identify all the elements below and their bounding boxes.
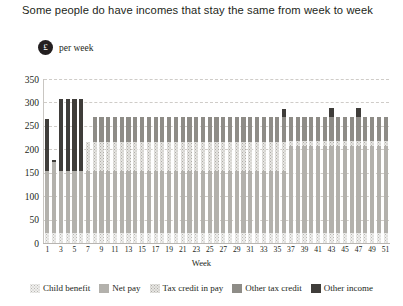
bar-segment: [289, 117, 293, 141]
bar-segment: [221, 171, 225, 233]
legend-item-other-income[interactable]: Other income: [311, 283, 373, 293]
bar-week-29[interactable]: [235, 117, 239, 243]
bar-week-24[interactable]: [201, 117, 205, 243]
bar-week-25[interactable]: [208, 117, 212, 243]
bar-week-43[interactable]: [329, 108, 333, 243]
bar-week-44[interactable]: [336, 117, 340, 243]
bar-week-34[interactable]: [269, 117, 273, 243]
bar-week-12[interactable]: [120, 117, 124, 243]
bar-week-14[interactable]: [133, 117, 137, 243]
bar-segment: [181, 117, 185, 141]
bar-week-30[interactable]: [241, 117, 245, 243]
bar-segment: [214, 117, 218, 141]
bar-segment: [72, 171, 76, 233]
bar-week-26[interactable]: [214, 117, 218, 243]
bar-week-11[interactable]: [113, 117, 117, 243]
bar-segment: [99, 117, 103, 141]
legend-item-net-pay[interactable]: Net pay: [99, 283, 140, 293]
bar-week-17[interactable]: [154, 117, 158, 243]
bar-week-47[interactable]: [356, 108, 360, 243]
bar-week-32[interactable]: [255, 117, 259, 243]
bar-week-46[interactable]: [350, 117, 354, 243]
bar-week-49[interactable]: [370, 117, 374, 243]
unit-label: per week: [59, 43, 94, 53]
legend-label: Child benefit: [43, 283, 90, 293]
bar-segment: [214, 171, 218, 233]
bar-segment: [201, 171, 205, 233]
x-axis-tick-label: 13: [125, 245, 133, 254]
bar-week-21[interactable]: [181, 117, 185, 243]
bar-segment: [302, 233, 306, 243]
bar-week-45[interactable]: [343, 117, 347, 243]
bar-week-9[interactable]: [99, 117, 103, 243]
bar-week-13[interactable]: [126, 117, 130, 243]
bar-week-41[interactable]: [316, 117, 320, 243]
bar-week-42[interactable]: [323, 117, 327, 243]
bar-week-3[interactable]: [59, 99, 63, 243]
bar-segment: [208, 171, 212, 233]
bar-segment: [59, 171, 63, 233]
bar-segment: [363, 146, 367, 234]
bar-week-16[interactable]: [147, 117, 151, 243]
x-axis-title: Week: [0, 258, 403, 268]
bar-week-7[interactable]: [86, 142, 90, 243]
bar-segment: [248, 142, 252, 171]
bar-week-36[interactable]: [282, 109, 286, 243]
legend-item-child-benefit[interactable]: Child benefit: [30, 283, 90, 293]
bar-week-2[interactable]: [52, 160, 56, 243]
x-axis-tick-label: 23: [192, 245, 200, 254]
bar-week-23[interactable]: [194, 117, 198, 243]
y-axis-tick-label: 100: [25, 192, 39, 202]
bar-week-1[interactable]: [45, 119, 49, 243]
bar-segment: [113, 233, 117, 243]
bar-week-39[interactable]: [302, 117, 306, 243]
bar-segment: [336, 146, 340, 234]
bar-segment: [208, 233, 212, 243]
bar-segment: [221, 117, 225, 141]
bar-segment: [106, 142, 110, 171]
bar-week-48[interactable]: [363, 117, 367, 243]
bar-segment: [329, 117, 333, 141]
bar-week-19[interactable]: [167, 117, 171, 243]
bar-segment: [113, 171, 117, 233]
bar-week-22[interactable]: [187, 117, 191, 243]
bar-week-33[interactable]: [262, 117, 266, 243]
bar-week-27[interactable]: [221, 117, 225, 243]
bar-segment: [208, 142, 212, 171]
chart-container: Some people do have incomes that stay th…: [0, 0, 403, 306]
x-axis-tick-label: 7: [86, 245, 90, 254]
bar-week-5[interactable]: [72, 99, 76, 243]
legend-item-other-tax-credit[interactable]: Other tax credit: [232, 283, 301, 293]
bar-week-28[interactable]: [228, 117, 232, 243]
bar-week-4[interactable]: [66, 99, 70, 243]
bar-segment: [316, 233, 320, 243]
bar-segment: [187, 117, 191, 141]
bar-week-18[interactable]: [160, 117, 164, 243]
bar-segment: [356, 233, 360, 243]
bar-week-15[interactable]: [140, 117, 144, 243]
bar-week-51[interactable]: [384, 117, 388, 243]
bar-segment: [45, 119, 49, 171]
y-axis-tick-label: 0: [34, 239, 39, 249]
bar-segment: [154, 117, 158, 141]
bar-week-6[interactable]: [79, 99, 83, 243]
bar-week-37[interactable]: [289, 117, 293, 243]
bar-segment: [309, 146, 313, 234]
bar-week-31[interactable]: [248, 117, 252, 243]
bar-week-8[interactable]: [93, 117, 97, 243]
bar-segment: [174, 233, 178, 243]
bar-segment: [106, 233, 110, 243]
bar-week-35[interactable]: [275, 117, 279, 243]
bar-segment: [79, 171, 83, 233]
legend-item-tax-credit-in-pay[interactable]: Tax credit in pay: [150, 283, 224, 293]
bar-week-38[interactable]: [296, 117, 300, 243]
bar-week-10[interactable]: [106, 117, 110, 243]
bar-week-20[interactable]: [174, 117, 178, 243]
bar-week-50[interactable]: [377, 117, 381, 243]
bar-segment: [174, 171, 178, 233]
bar-segment: [140, 233, 144, 243]
bar-week-40[interactable]: [309, 117, 313, 243]
legend-swatch-icon: [99, 284, 109, 293]
legend-swatch-icon: [150, 284, 160, 293]
bar-segment: [187, 233, 191, 243]
